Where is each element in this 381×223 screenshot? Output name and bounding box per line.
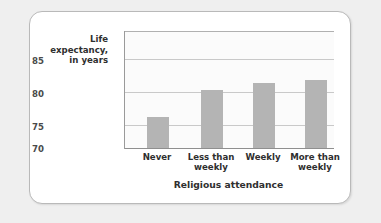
y-tick-label-85: 85	[24, 56, 44, 66]
bar-chart: Life expectancy, in years 85 80 75 70 Ne…	[30, 12, 350, 203]
x-tick-labels: Never Less than weekly Weekly More than …	[124, 152, 333, 176]
y-tick-label-80: 80	[24, 89, 44, 99]
x-tick-label-more-than-weekly: More than weekly	[286, 152, 344, 172]
chart-card: Life expectancy, in years 85 80 75 70 Ne…	[29, 11, 351, 204]
x-tick-label-never: Never	[128, 152, 186, 162]
y-tick-label-70: 70	[24, 144, 44, 154]
bars-layer	[125, 31, 334, 149]
bar-weekly[interactable]	[253, 83, 275, 148]
plot-area	[124, 31, 334, 149]
x-tick-label-weekly: Weekly	[234, 152, 292, 162]
bar-more-than-weekly[interactable]	[305, 80, 327, 148]
y-tick-label-75: 75	[24, 122, 44, 132]
bar-never[interactable]	[147, 117, 169, 148]
x-tick-label-less-than-weekly: Less than weekly	[182, 152, 240, 172]
bar-less-than-weekly[interactable]	[201, 90, 223, 148]
x-axis-title: Religious attendance	[124, 179, 333, 190]
